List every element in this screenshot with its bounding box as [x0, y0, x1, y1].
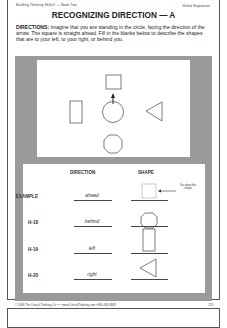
- dotted-square-icon: [142, 184, 156, 198]
- draw-note: You draw this shape: [178, 184, 198, 190]
- page-number: 223: [208, 303, 213, 307]
- octagon-answer-icon: [141, 213, 157, 228]
- triangle-answer-icon: [140, 259, 156, 277]
- footer-copyright: © 2006 The Critical Thinking Co.™ • www.…: [15, 303, 116, 307]
- rectangle-answer-icon: [143, 229, 155, 251]
- pointer-arrow-icon: [158, 190, 176, 193]
